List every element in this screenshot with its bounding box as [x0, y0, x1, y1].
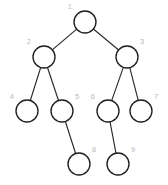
graph-edge-6-9 [110, 121, 116, 153]
graph-node-2 [33, 46, 55, 68]
graph-node-6 [97, 100, 119, 122]
graph-node-label-8: 8 [92, 145, 96, 154]
graph-edge-3-7 [130, 67, 139, 101]
graph-canvas: 123456789 [0, 0, 168, 185]
graph-node-label-7: 7 [154, 92, 158, 101]
graph-figure: 123456789 [0, 0, 168, 185]
graph-node-label-1: 1 [68, 2, 72, 11]
graph-node-label-4: 4 [10, 92, 14, 101]
graph-edge-3-6 [111, 67, 123, 101]
graph-node-7 [130, 100, 152, 122]
graph-edge-5-8 [65, 121, 76, 154]
graph-node-label-6: 6 [91, 92, 95, 101]
graph-node-4 [16, 100, 38, 122]
graph-node-3 [116, 46, 138, 68]
graph-node-8 [68, 153, 90, 175]
graph-node-label-3: 3 [140, 37, 144, 46]
graph-node-9 [107, 153, 129, 175]
graph-edge-2-5 [47, 67, 58, 101]
graph-node-5 [51, 100, 73, 122]
graph-node-1 [74, 11, 96, 33]
graph-node-label-5: 5 [75, 92, 79, 101]
graph-edge-1-2 [52, 29, 77, 50]
graph-node-label-2: 2 [27, 37, 31, 46]
graph-edge-1-3 [93, 29, 119, 51]
graph-edge-2-4 [30, 67, 41, 101]
graph-node-label-9: 9 [131, 145, 135, 154]
